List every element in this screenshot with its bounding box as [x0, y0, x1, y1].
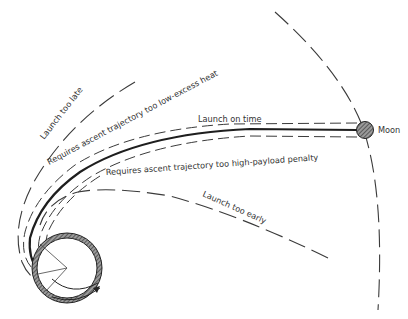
label-ascent-too-low: Requires ascent trajectory too low-exces… [45, 67, 220, 166]
moon [357, 122, 374, 139]
label-launch-on-time: Launch on time [198, 114, 262, 124]
label-launch-too-early: Launch too early [201, 189, 268, 226]
label-moon: Moon [378, 125, 400, 135]
label-launch-too-late: Launch too late [38, 85, 85, 141]
earth [32, 233, 102, 303]
lunar-trajectory-diagram: Moon Launch too late Requires ascent tra… [0, 0, 408, 319]
label-ascent-too-high: Requires ascent trajectory too high-payl… [105, 152, 318, 177]
